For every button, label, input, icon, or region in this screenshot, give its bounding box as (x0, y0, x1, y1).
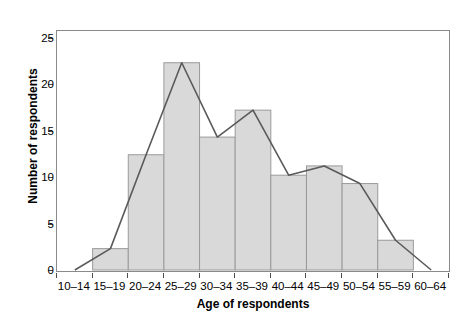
bars-group (93, 63, 414, 270)
histogram-bar (128, 155, 164, 270)
y-axis-tick-label: 15 (24, 125, 54, 137)
histogram-bar (342, 184, 378, 270)
histogram-bar (378, 240, 414, 270)
x-axis-tick-mark (56, 273, 57, 278)
x-axis-title: Age of respondents (55, 297, 451, 311)
histogram-chart: Number of respondents 0510152025 10–1415… (0, 0, 467, 325)
plot-area (56, 30, 450, 272)
y-axis-tick-label: 25 (24, 32, 54, 44)
x-axis-tick-mark (377, 273, 378, 278)
histogram-bar (200, 137, 236, 270)
x-axis-tick-mark (448, 273, 449, 278)
x-axis-ticks: 10–1415–1920–2425–2930–3435–3940–4445–49… (56, 273, 450, 299)
y-axis-tick-labels: 0510152025 (14, 0, 54, 325)
x-axis-tick-mark (234, 273, 235, 278)
y-axis-tick-label: 10 (24, 171, 54, 183)
x-axis-tick-mark (270, 273, 271, 278)
x-axis-tick-mark (305, 273, 306, 278)
histogram-bar (271, 175, 307, 270)
histogram-bar (93, 249, 129, 270)
x-axis-tick-mark (341, 273, 342, 278)
y-axis-tick-label: 20 (24, 78, 54, 90)
y-axis-tick-label: 5 (24, 218, 54, 230)
histogram-bar (306, 166, 342, 270)
x-axis-tick-mark (92, 273, 93, 278)
x-axis-tick-mark (199, 273, 200, 278)
x-axis-tick-label: 60–64 (403, 280, 457, 292)
x-axis-tick-mark (127, 273, 128, 278)
y-axis-tick-label: 0 (24, 264, 54, 276)
x-axis-tick-mark (163, 273, 164, 278)
plot-graphics (57, 31, 449, 271)
x-axis-tick-mark (412, 273, 413, 278)
